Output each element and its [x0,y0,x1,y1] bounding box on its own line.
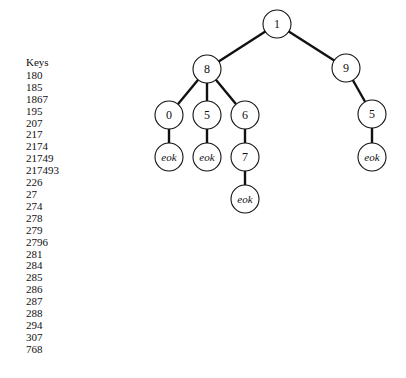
node-label: 6 [242,108,248,122]
node-label: 7 [242,150,248,164]
eok-label: eok [237,193,253,205]
eok-label: eok [364,151,380,163]
node-label: 8 [204,62,210,76]
node-label: 1 [274,17,280,31]
node-label: 0 [166,108,172,122]
trie-diagram: 1 8 9 0 5 6 5 eok eok 7 eok eok [0,0,406,378]
node-label: 9 [343,61,349,75]
eok-label: eok [161,151,177,163]
node-label: 5 [369,107,375,121]
node-label: 5 [204,108,210,122]
eok-label: eok [199,151,215,163]
tree-nodes [155,10,386,213]
